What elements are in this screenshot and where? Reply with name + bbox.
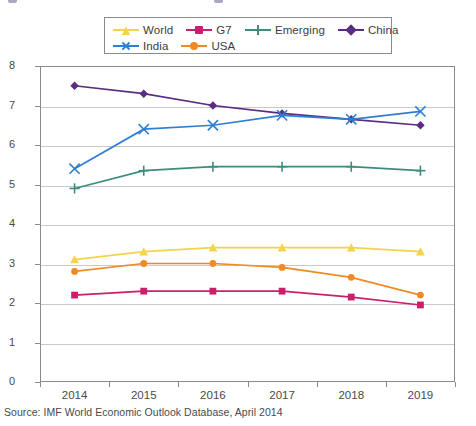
x-tick-mark [40,382,41,387]
y-tick-label: 6 [0,138,15,150]
x-tick-label: 2017 [252,389,312,401]
legend-item-china[interactable]: China [338,24,399,36]
data-point-marker [140,89,149,98]
legend-row-1: WorldG7EmergingChina [113,22,385,38]
legend-marker-triangle-icon [113,24,139,36]
legend-label: USA [211,40,235,52]
data-point-marker [279,264,286,271]
legend-label: India [143,40,168,52]
data-point-marker [416,121,425,130]
x-tick-mark [455,382,456,387]
data-point-marker [210,288,217,295]
data-point-marker [279,288,286,295]
data-point-marker [415,166,425,176]
x-tick-label: 2014 [45,389,105,401]
y-tick-label: 8 [0,59,15,71]
cropped-header-artifact [0,0,476,5]
data-point-marker [71,292,78,299]
series-g7 [71,288,424,309]
x-tick-mark [178,382,179,387]
y-tick-label: 4 [0,217,15,229]
y-tick-label: 1 [0,336,15,348]
y-tick-label: 2 [0,296,15,308]
x-tick-label: 2019 [390,389,450,401]
data-point-marker [139,166,149,176]
series-world [70,243,425,263]
legend-item-emerging[interactable]: Emerging [245,24,325,36]
series-india [69,106,425,173]
legend-marker-square-icon [186,24,212,36]
legend-item-india[interactable]: India [113,40,168,52]
data-point-marker [417,302,424,309]
data-point-marker [209,101,218,110]
x-tick-mark [317,382,318,387]
y-tick-label: 7 [0,99,15,111]
y-tick-label: 0 [0,375,15,387]
legend-label: G7 [216,24,232,36]
series-china [70,82,424,130]
legend-label: China [368,24,399,36]
x-tick-label: 2018 [321,389,381,401]
data-point-marker [69,183,79,193]
data-point-marker [277,162,287,172]
x-tick-label: 2015 [114,389,174,401]
data-point-marker [140,288,147,295]
series-line [75,86,421,126]
series-line [75,291,421,305]
legend-row-2: IndiaUSA [113,38,385,54]
data-point-marker [346,162,356,172]
legend-marker-circle-icon [181,40,207,52]
y-tick-label: 3 [0,257,15,269]
chart-legend: WorldG7EmergingChina IndiaUSA [104,17,392,54]
data-point-marker [417,292,424,299]
y-tick-label: 5 [0,178,15,190]
x-tick-mark [109,382,110,387]
legend-label: Emerging [275,24,325,36]
series-line [75,167,421,189]
figure-container: WorldG7EmergingChina IndiaUSA 876543210 … [0,0,476,426]
x-tick-mark [386,382,387,387]
legend-label: World [143,24,173,36]
x-tick-mark [248,382,249,387]
series-line [75,248,421,260]
data-point-marker [348,274,355,281]
series-layer [40,66,455,382]
data-point-marker [348,294,355,301]
data-point-marker [70,82,78,91]
legend-marker-x-icon [113,40,139,52]
legend-marker-diamond-icon [338,24,364,36]
x-tick-label: 2016 [183,389,243,401]
data-point-marker [210,260,217,267]
legend-item-world[interactable]: World [113,24,173,36]
data-point-marker [208,162,218,172]
legend-item-g7[interactable]: G7 [186,24,232,36]
data-point-marker [71,268,78,275]
series-emerging [69,162,425,194]
legend-item-usa[interactable]: USA [181,40,235,52]
source-note: Source: IMF World Economic Outlook Datab… [4,406,283,418]
legend-marker-plus-icon [245,24,271,36]
data-point-marker [140,260,147,267]
data-point-marker [69,164,79,174]
